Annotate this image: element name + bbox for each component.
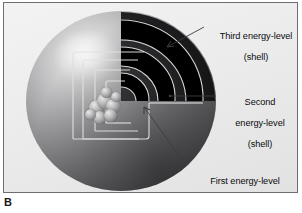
- label-second-line3: (shell): [220, 139, 298, 150]
- label-first-line1: First energy-level: [190, 176, 298, 187]
- label-third-line2: (shell): [209, 52, 298, 63]
- label-first-energy-level: First energy-level (shell): [190, 165, 298, 193]
- label-third-line1: Third energy-level: [209, 31, 298, 42]
- atom-shell-diagram-figure: Third energy-level (shell) Second energy…: [0, 0, 302, 213]
- label-second-energy-level: Second energy-level (shell): [220, 86, 298, 160]
- nucleon: [104, 109, 117, 122]
- figure-caption-letter: B: [4, 196, 12, 208]
- nucleon: [85, 109, 96, 120]
- label-second-line2: energy-level: [220, 118, 298, 129]
- label-third-energy-level: Third energy-level (shell): [209, 20, 298, 73]
- cutaway-wedge: [26, 11, 216, 191]
- label-second-line1: Second: [220, 97, 298, 108]
- illustration-panel: Third energy-level (shell) Second energy…: [3, 2, 298, 193]
- atom-sphere-group: [26, 11, 216, 191]
- nucleon: [111, 92, 121, 102]
